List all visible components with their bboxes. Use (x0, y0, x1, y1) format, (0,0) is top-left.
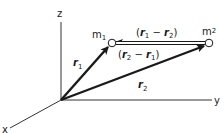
mass-m2-circle (205, 39, 213, 47)
x-axis (10, 100, 61, 128)
relative-position-vector-diagram: z y x m1 m2 r1 r2 (r1 − r2) (r2 − r1) (0, 0, 224, 133)
mass-m2-label: m2 (202, 26, 216, 37)
r2-label: r2 (138, 79, 147, 93)
mass-m1-label: m1 (92, 29, 106, 42)
mass-m1: m1 (92, 29, 116, 47)
z-axis-label: z (57, 8, 62, 19)
r1-label: r1 (73, 57, 82, 71)
y-axis-label: y (214, 95, 220, 106)
mass-m2: m2 (202, 26, 216, 47)
coordinate-axes: z y x (2, 8, 220, 133)
mass-m1-circle (108, 39, 116, 47)
r2-minus-r1-label: (r2 − r1) (118, 49, 159, 62)
r1-minus-r2-label: (r1 − r2) (136, 27, 177, 40)
x-axis-label: x (2, 124, 8, 133)
relative-vector-lines (116, 39, 205, 47)
